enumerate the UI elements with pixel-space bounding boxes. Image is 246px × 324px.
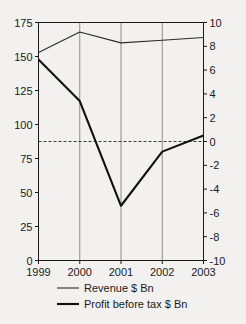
right-axis-tick-label: -2 bbox=[210, 159, 220, 171]
x-axis-tick-label: 2002 bbox=[150, 266, 174, 278]
left-axis-tick-label: 50 bbox=[20, 187, 32, 199]
right-axis-tick-label: 2 bbox=[210, 112, 216, 124]
right-axis-tick-label: -8 bbox=[210, 231, 220, 243]
right-axis-tick-label: 8 bbox=[210, 40, 216, 52]
right-axis-tick-label: -6 bbox=[210, 207, 220, 219]
x-axis-tick-label: 2001 bbox=[109, 266, 133, 278]
x-axis-tick-label: 2000 bbox=[68, 266, 92, 278]
x-axis-tick-label: 1999 bbox=[26, 266, 50, 278]
left-axis-tick-label: 125 bbox=[14, 85, 32, 97]
left-axis-tick-label: 150 bbox=[14, 51, 32, 63]
x-axis-tick-label: 2003 bbox=[191, 266, 215, 278]
chart-container: 0255075100125150175 -10-8-6-4-20246810 1… bbox=[0, 0, 246, 324]
line-chart: 0255075100125150175 -10-8-6-4-20246810 1… bbox=[0, 0, 246, 324]
right-axis-tick-label: -4 bbox=[210, 183, 220, 195]
left-axis-tick-label: 25 bbox=[20, 221, 32, 233]
legend-label: Profit before tax $ Bn bbox=[84, 298, 187, 310]
right-axis-tick-label: 0 bbox=[210, 136, 216, 148]
right-axis-tick-label: 10 bbox=[210, 17, 222, 29]
left-axis-tick-label: 175 bbox=[14, 17, 32, 29]
right-axis-tick-label: 4 bbox=[210, 88, 216, 100]
left-axis-tick-label: 75 bbox=[20, 153, 32, 165]
left-axis-tick-label: 100 bbox=[14, 119, 32, 131]
legend-label: Revenue $ Bn bbox=[84, 282, 154, 294]
right-axis-tick-label: 6 bbox=[210, 64, 216, 76]
